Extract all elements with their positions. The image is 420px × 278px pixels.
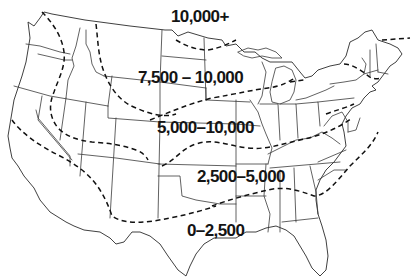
contour-west-coast [42,12,148,160]
us-zone-map: 10,000+ 7,500 – 10,000 5,000–10,000 2,50… [0,0,420,278]
lake-michigan-shore [258,62,266,104]
lake-superior [238,48,282,58]
zone-label-5000-10000: 5,000–10,000 [157,119,254,136]
contour-northeast [344,64,382,79]
zone-label-10000-plus: 10,000+ [171,8,229,25]
zone-label-0-2500: 0–2,500 [187,222,244,239]
contour-maine [382,38,410,40]
lake-erie-shore [296,86,334,100]
zone-label-2500-5000: 2,500–5,000 [197,168,285,185]
zone-label-7500-10000: 7,500 – 10,000 [138,69,243,86]
contour-north [176,40,236,50]
